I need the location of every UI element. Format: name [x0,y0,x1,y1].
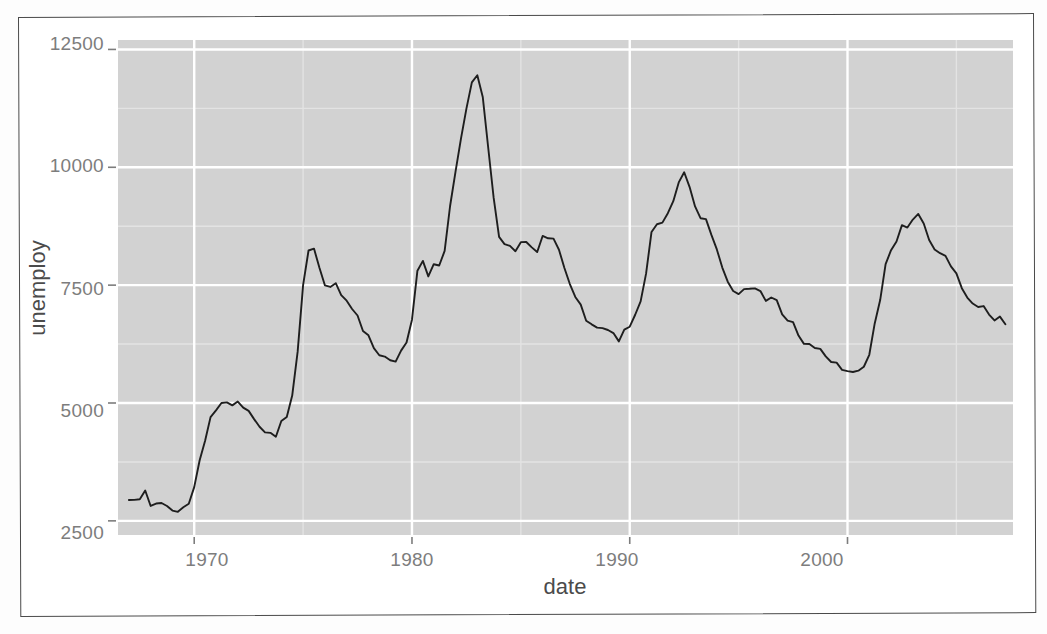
y-tick-label-2500: 2500 [4,522,104,544]
y-tick-label-12500: 12500 [4,33,104,55]
chart-figure: 12500 10000 7500 5000 2500 1970 1980 199… [0,0,1047,634]
y-tick-label-7500: 7500 [4,278,104,300]
x-tick-label-1970: 1970 [185,549,228,571]
line-chart-plot [0,0,1047,634]
y-tick-label-10000: 10000 [4,155,104,177]
x-tick-label-1980: 1980 [390,549,433,571]
x-axis-title: date [544,574,587,600]
plot-panel-background [118,40,1013,535]
x-tick-label-2000: 2000 [800,549,843,571]
y-tick-label-5000: 5000 [4,400,104,422]
y-axis-title: unemploy [25,240,51,335]
x-tick-label-1990: 1990 [595,549,638,571]
scanned-page: 12500 10000 7500 5000 2500 1970 1980 199… [0,0,1047,634]
